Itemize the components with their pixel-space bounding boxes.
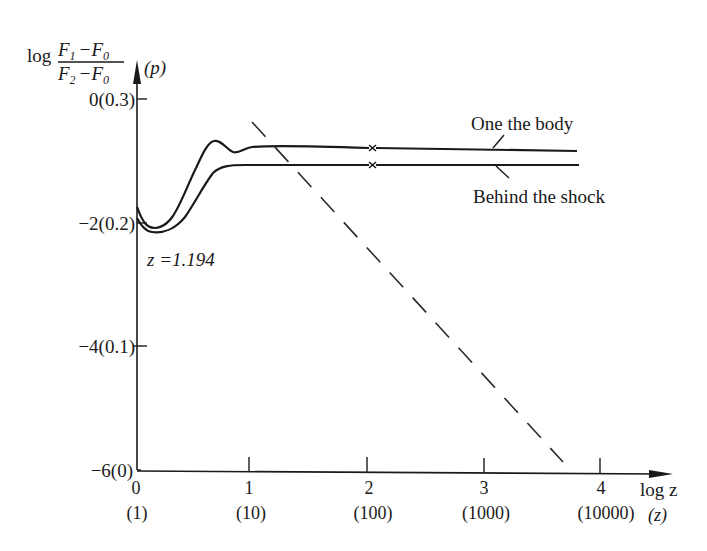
- leader-lines: [493, 135, 509, 178]
- y-tick-label: −2(0.2): [78, 213, 135, 235]
- x-tick-sublabel: (10): [236, 503, 266, 524]
- y-axis-label: log F1−F0 F2−F0 (p): [27, 39, 166, 87]
- y-tick-label: −6(0): [91, 460, 133, 482]
- x-axis-label: log z (z): [640, 479, 677, 526]
- y-label-log: log: [27, 45, 52, 66]
- x-tick-label: 3: [480, 478, 489, 498]
- label-behind-the-shock: Behind the shock: [473, 186, 605, 207]
- x-axis: [137, 470, 673, 478]
- x-axis-title: log z: [640, 479, 677, 500]
- label-on-the-body: One the body: [471, 113, 574, 134]
- series-on-the-body: [137, 141, 577, 228]
- x-tick-labels: 0 1 2 3 4 (1) (10) (100) (1000) (10000): [127, 478, 635, 524]
- y-label-numerator: F1−F0: [57, 39, 109, 63]
- chart: 0(0.3) −2(0.2) −4(0.1) −6(0) 0 1 2 3 4 (…: [0, 0, 707, 551]
- leader-line-shock: [496, 166, 509, 178]
- y-tick-label: 0(0.3): [89, 89, 135, 111]
- x-tick-sublabel: (100): [354, 503, 393, 524]
- annotation-z-value: z =1.194: [146, 249, 215, 270]
- x-tick-label: 0: [132, 478, 141, 498]
- x-marker-icon: [369, 162, 376, 168]
- y-ticks: [133, 99, 147, 470]
- x-tick-label: 4: [597, 478, 606, 498]
- x-tick-sublabel: (1): [127, 503, 148, 524]
- x-tick-label: 2: [365, 478, 374, 498]
- x-markers: [369, 145, 376, 168]
- x-tick-label: 1: [245, 478, 254, 498]
- x-marker-icon: [369, 145, 376, 151]
- y-axis: [133, 60, 141, 470]
- y-label-secondary: (p): [144, 57, 166, 79]
- y-tick-label: −4(0.1): [78, 336, 135, 358]
- x-axis-subtitle: (z): [648, 505, 667, 526]
- series-dashed-asymptote: [252, 122, 563, 462]
- y-tick-labels: 0(0.3) −2(0.2) −4(0.1) −6(0): [78, 89, 135, 482]
- y-axis-arrow-icon: [133, 60, 141, 84]
- x-tick-sublabel: (1000): [462, 503, 510, 524]
- leader-line-body: [493, 135, 504, 148]
- x-axis-arrow-icon: [649, 470, 673, 478]
- y-label-denominator: F2−F0: [57, 63, 109, 87]
- x-tick-sublabel: (10000): [578, 503, 635, 524]
